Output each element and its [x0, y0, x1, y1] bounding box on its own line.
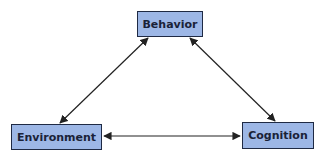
node-behavior-label: Behavior	[142, 18, 197, 31]
node-environment-label: Environment	[17, 131, 96, 144]
node-cognition: Cognition	[242, 122, 314, 149]
edge-behavior-environment	[60, 38, 148, 123]
edge-behavior-cognition	[190, 38, 275, 121]
node-behavior: Behavior	[137, 11, 203, 37]
diagram-canvas: Behavior Environment Cognition	[0, 0, 326, 161]
node-environment: Environment	[11, 124, 102, 150]
node-cognition-label: Cognition	[248, 129, 308, 142]
